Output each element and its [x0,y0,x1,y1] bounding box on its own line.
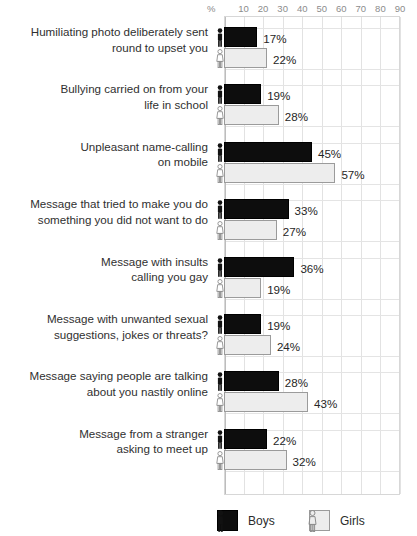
category-label: Message with insults calling you gay [8,254,208,285]
gridline-vertical [400,17,401,494]
bar-value-boys: 33% [295,205,318,217]
female-figure-icon [215,336,225,355]
gridline-horizontal [225,471,399,472]
bar-girls [224,48,267,68]
male-figure-icon [215,372,225,391]
female-figure-icon [307,510,318,532]
male-figure-icon [215,315,225,334]
bar-girls [224,105,279,125]
bar-value-girls: 27% [283,226,306,238]
bar-girls [224,335,271,355]
bar-value-boys: 17% [263,33,286,45]
x-axis-tick-90: 90 [395,3,406,14]
gridline-vertical [263,17,264,494]
x-axis-tick-60: 60 [336,3,347,14]
category-label: Message from a stranger asking to meet u… [8,426,208,457]
gridline-horizontal [225,241,399,242]
gridline-horizontal [225,69,399,70]
female-figure-icon [215,106,225,125]
bar-boys [224,314,261,334]
legend-label-girls: Girls [340,514,365,528]
bar-value-girls: 28% [285,111,308,123]
bar-value-boys: 36% [300,263,323,275]
chart-legend: Boys Girls [0,505,417,536]
female-figure-icon [215,451,225,470]
female-figure-icon [215,221,225,240]
category-label: Message with unwanted sexual suggestions… [8,311,208,342]
bar-boys [224,199,289,219]
legend-label-boys: Boys [248,514,275,528]
x-axis-tick-30: 30 [277,3,288,14]
bar-boys [224,429,267,449]
gridline-vertical [302,17,303,494]
female-figure-icon [215,164,225,183]
bar-value-girls: 43% [314,398,337,410]
x-axis: % 102030405060708090 [0,0,417,16]
x-axis-tick-80: 80 [375,3,386,14]
gridline-vertical [380,17,381,494]
x-axis-tick-70: 70 [356,3,367,14]
male-figure-icon [215,143,225,162]
category-label: Unpleasant name-calling on mobile [8,139,208,170]
female-figure-icon [215,279,225,298]
bar-boys [224,84,261,104]
bar-value-boys: 45% [318,148,341,160]
female-figure-icon [215,393,225,412]
female-figure-icon [215,49,225,68]
gridline-horizontal [225,356,399,357]
male-figure-icon [215,430,225,449]
bar-girls [224,220,277,240]
male-figure-icon [215,85,225,104]
bar-value-girls: 57% [341,169,364,181]
bar-boys [224,371,279,391]
bar-girls [224,163,335,183]
bar-value-boys: 28% [285,377,308,389]
gridline-vertical [341,17,342,494]
bar-girls [224,450,287,470]
gridline-horizontal [225,299,399,300]
bar-value-girls: 22% [273,54,296,66]
x-axis-tick-20: 20 [258,3,269,14]
bar-value-girls: 19% [267,284,290,296]
male-figure-icon [215,200,225,219]
gridline-horizontal [225,413,399,414]
gridline-horizontal [225,184,399,185]
bar-value-girls: 24% [277,341,300,353]
male-figure-icon [215,28,225,47]
bar-value-boys: 22% [273,435,296,447]
x-axis-tick-40: 40 [297,3,308,14]
male-figure-icon [215,510,226,532]
legend-item-boys: Boys [215,510,275,531]
category-label: Bullying carried on from your life in sc… [8,81,208,112]
bar-value-girls: 32% [293,456,316,468]
gridline-vertical [361,17,362,494]
gridline-vertical [322,17,323,494]
bar-boys [224,257,294,277]
bar-girls [224,278,261,298]
legend-item-girls: Girls [307,510,365,531]
category-label: Message that tried to make you do someth… [8,196,208,227]
category-label: Message saying people are talking about … [8,368,208,399]
bar-girls [224,392,308,412]
bar-chart: % 102030405060708090 Humiliating photo d… [0,0,417,536]
gridline-horizontal [225,126,399,127]
bar-boys [224,142,312,162]
bar-value-boys: 19% [267,320,290,332]
x-axis-unit-label: % [207,3,215,14]
x-axis-tick-10: 10 [238,3,249,14]
x-axis-tick-50: 50 [316,3,327,14]
male-figure-icon [215,258,225,277]
bar-value-boys: 19% [267,90,290,102]
bar-boys [224,27,257,47]
category-label: Humiliating photo deliberately sent roun… [8,24,208,55]
